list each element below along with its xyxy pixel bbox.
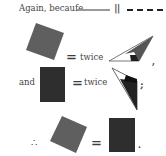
therefore-symbol: ∴	[31, 138, 37, 148]
black-dashed-line-segment	[127, 9, 163, 11]
triangle-figure-horizontal	[108, 35, 154, 62]
and-text: and	[19, 77, 35, 87]
dark-rectangle-figure	[40, 67, 65, 102]
period: .	[138, 140, 141, 150]
equals-sign: =	[66, 50, 77, 63]
triangle-figure-vertical	[111, 67, 139, 111]
twice-text: twice	[84, 77, 107, 87]
semicolon: ;	[140, 80, 144, 90]
again-because-text: Again, becaufe	[19, 3, 83, 13]
equals-sign: =	[91, 136, 102, 149]
parallel-symbol: ||	[114, 3, 119, 13]
gray-line-segment	[77, 9, 110, 11]
comma: ,	[152, 56, 155, 66]
gray-square-figure	[50, 116, 87, 153]
twice-text: twice	[80, 52, 103, 62]
dark-rectangle-figure	[109, 118, 135, 152]
equals-sign: =	[72, 76, 83, 89]
gray-square-figure	[26, 23, 64, 60]
